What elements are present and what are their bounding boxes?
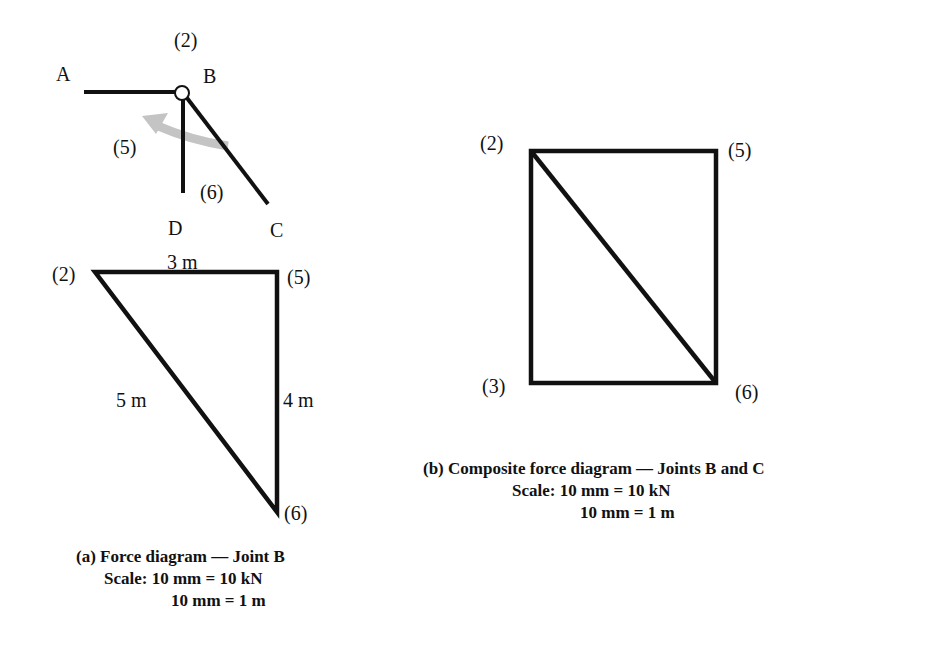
caption-b-title: (b) Composite force diagram — Joints B a… xyxy=(423,459,765,479)
caption-a-scale2: 10 mm = 1 m xyxy=(171,591,266,611)
edge-label-hypotenuse: 5 m xyxy=(116,390,147,410)
edge-label-right: 4 m xyxy=(283,390,314,410)
node-label-b-3: (3) xyxy=(482,376,505,396)
joint-label-c: C xyxy=(270,220,283,240)
node-label-b-2: (2) xyxy=(480,133,503,153)
caption-b-scale1: Scale: 10 mm = 10 kN xyxy=(512,481,670,501)
node-label-a-2: (2) xyxy=(52,264,75,284)
joint-label-b: B xyxy=(203,66,216,86)
member-label-5: (5) xyxy=(113,137,136,157)
joint-label-a: A xyxy=(56,64,70,84)
node-label-a-6: (6) xyxy=(284,503,307,523)
force-rectangle-b xyxy=(531,151,716,383)
joint-b-pin-icon xyxy=(175,86,189,100)
joint-label-d: D xyxy=(168,218,182,238)
caption-b-scale2: 10 mm = 1 m xyxy=(580,503,675,523)
node-label-b-5: (5) xyxy=(728,140,751,160)
caption-a-title: (a) Force diagram — Joint B xyxy=(76,547,285,567)
member-label-6: (6) xyxy=(200,182,223,202)
member-label-2: (2) xyxy=(174,30,197,50)
node-label-b-6: (6) xyxy=(735,382,758,402)
truss-sketch xyxy=(84,86,268,204)
node-label-a-5: (5) xyxy=(287,267,310,287)
caption-a-scale1: Scale: 10 mm = 10 kN xyxy=(104,569,262,589)
edge-label-top: 3 m xyxy=(167,252,198,272)
